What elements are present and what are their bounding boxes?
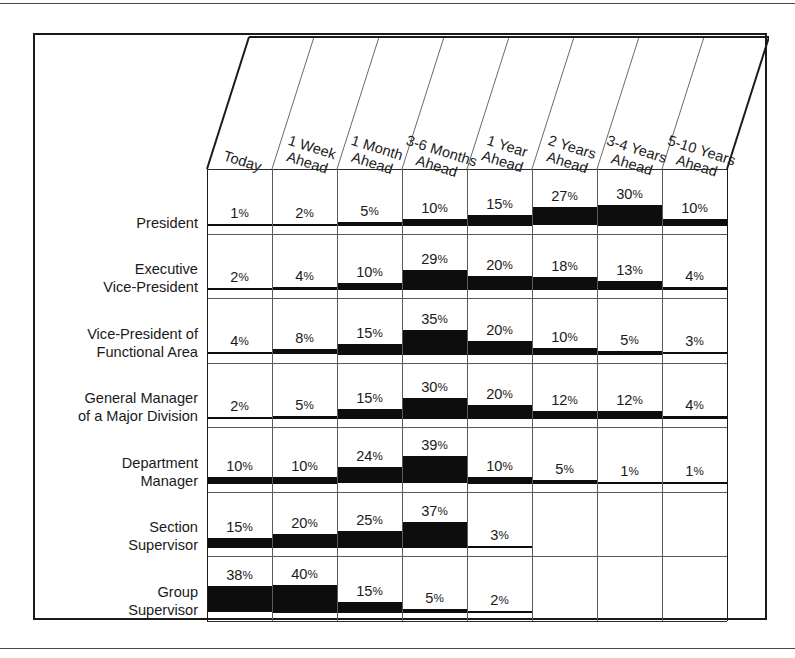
bar-r7-c5 [467, 611, 532, 613]
figure-frame: Today1 WeekAhead1 MonthAhead3-6 MonthsAh… [33, 33, 767, 620]
percent-sign: % [437, 312, 447, 325]
percent-sign: % [567, 330, 577, 343]
percent-sign: % [307, 516, 317, 529]
percent-sign: % [242, 459, 252, 472]
cell-value-r2-c4: 29% [402, 251, 467, 267]
cell-number: 15 [356, 325, 372, 341]
percent-sign: % [437, 380, 447, 393]
row-label-3: Vice-President ofFunctional Area [35, 325, 207, 361]
cell-number: 20 [486, 257, 502, 273]
cell-number: 10 [551, 329, 567, 345]
column-separator-1 [272, 169, 273, 621]
row-label-line: General Manager [35, 389, 198, 407]
cell-value-r3-c4: 35% [402, 311, 467, 327]
cell-number: 10 [486, 458, 502, 474]
bar-r6-c2 [272, 534, 337, 548]
bar-r6-c3 [337, 531, 402, 549]
cell-number: 40 [291, 566, 307, 582]
percent-sign: % [372, 449, 382, 462]
bar-r2-c5 [467, 276, 532, 290]
cell-value-r2-c2: 4% [272, 268, 337, 284]
bar-r3-c3 [337, 344, 402, 355]
cell-number: 13 [616, 262, 632, 278]
bar-r1-c5 [467, 215, 532, 226]
row-label-line: Supervisor [35, 601, 198, 619]
cell-value-r7-c4: 5% [402, 590, 467, 606]
cell-value-r7-c3: 15% [337, 583, 402, 599]
cell-value-r1-c7: 30% [597, 186, 662, 202]
bar-r5-c5 [467, 477, 532, 484]
column-separator-0 [207, 169, 208, 621]
cell-value-r7-c1: 38% [207, 567, 272, 583]
percent-sign: % [437, 504, 447, 517]
cell-value-r6-c3: 25% [337, 512, 402, 528]
bar-r1-c7 [597, 205, 662, 226]
bar-r3-c5 [467, 341, 532, 355]
bar-r4-c7 [597, 411, 662, 419]
percent-sign: % [437, 201, 447, 214]
cell-value-r2-c5: 20% [467, 257, 532, 273]
percent-sign: % [502, 387, 512, 400]
cell-number: 10 [681, 200, 697, 216]
bar-r2-c3 [337, 283, 402, 290]
bar-r6-c5 [467, 546, 532, 548]
percent-sign: % [693, 334, 703, 347]
bar-r1-c3 [337, 222, 402, 226]
page-rule-bottom [0, 648, 795, 649]
cell-number: 12 [616, 392, 632, 408]
row-label-line: Group [35, 583, 198, 601]
row-label-2: ExecutiveVice-President [35, 260, 207, 296]
row-label-line: Functional Area [35, 343, 198, 361]
cell-value-r3-c7: 5% [597, 332, 662, 348]
percent-sign: % [502, 258, 512, 271]
percent-sign: % [628, 333, 638, 346]
percent-sign: % [437, 438, 447, 451]
cell-value-r1-c5: 15% [467, 196, 532, 212]
cell-value-r5-c4: 39% [402, 437, 467, 453]
cell-number: 20 [291, 515, 307, 531]
row-label-line: Vice-President [35, 278, 198, 296]
cell-value-r1-c1: 1% [207, 205, 272, 221]
percent-sign: % [498, 593, 508, 606]
percent-sign: % [567, 189, 577, 202]
bar-r4-c1 [207, 417, 272, 419]
cell-value-r6-c2: 20% [272, 515, 337, 531]
cell-value-r4-c4: 30% [402, 379, 467, 395]
bar-r4-c4 [402, 398, 467, 419]
percent-sign: % [563, 462, 573, 475]
percent-sign: % [567, 393, 577, 406]
cell-value-r4-c6: 12% [532, 392, 597, 408]
bar-r2-c6 [532, 277, 597, 290]
cell-value-r3-c3: 15% [337, 325, 402, 341]
bar-r5-c6 [532, 480, 597, 484]
cell-number: 10 [226, 458, 242, 474]
bar-r1-c1 [207, 224, 272, 226]
cell-number: 30 [421, 379, 437, 395]
bar-r7-c2 [272, 585, 337, 613]
cell-value-r5-c2: 10% [272, 458, 337, 474]
bar-r4-c6 [532, 411, 597, 419]
cell-number: 15 [226, 519, 242, 535]
bar-r3-c7 [597, 351, 662, 355]
percent-sign: % [567, 259, 577, 272]
percent-sign: % [372, 326, 382, 339]
cell-value-r3-c5: 20% [467, 322, 532, 338]
cell-number: 20 [486, 386, 502, 402]
row-label-line: Department [35, 454, 198, 472]
percent-sign: % [502, 323, 512, 336]
cell-number: 39 [421, 437, 437, 453]
bar-r5-c2 [272, 477, 337, 484]
percent-sign: % [238, 270, 248, 283]
bar-r4-c3 [337, 409, 402, 420]
cell-number: 10 [291, 458, 307, 474]
percent-sign: % [632, 187, 642, 200]
cell-value-r6-c5: 3% [467, 527, 532, 543]
cell-number: 12 [551, 392, 567, 408]
cell-number: 10 [421, 200, 437, 216]
bar-r1-c2 [272, 224, 337, 226]
percent-sign: % [693, 269, 703, 282]
row-label-7: GroupSupervisor [35, 583, 207, 619]
cell-value-r6-c4: 37% [402, 503, 467, 519]
percent-sign: % [238, 334, 248, 347]
cell-value-r1-c8: 10% [662, 200, 727, 216]
